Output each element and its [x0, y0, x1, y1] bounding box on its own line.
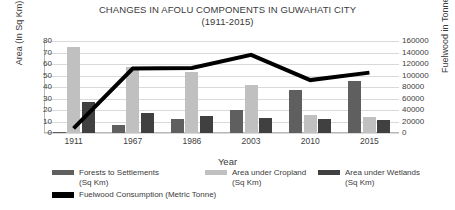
y-tick-label-right: 20000 — [402, 118, 442, 126]
fuelwood-line — [74, 55, 370, 129]
plot-area — [44, 41, 399, 133]
x-tick-label: 2015 — [339, 136, 399, 146]
y-tick-label-left: 70 — [26, 49, 52, 57]
chart-subtitle: (1911-2015) — [0, 16, 455, 28]
legend-swatch — [52, 192, 74, 198]
y-tick-label-right: 0 — [402, 129, 442, 137]
y-tick-label-left: 80 — [26, 37, 52, 45]
y-tick-label-right: 160000 — [402, 37, 442, 45]
y-tick-label-left: 30 — [26, 95, 52, 103]
y-tick-label-left: 20 — [26, 106, 52, 114]
legend-item[interactable]: Area under Cropland(Sq Km) — [205, 168, 306, 188]
y-tick-label-right: 100000 — [402, 72, 442, 80]
chart-title-block: CHANGES IN AFOLU COMPONENTS IN GUWAHATI … — [0, 4, 455, 28]
y-tick-label-left: 40 — [26, 83, 52, 91]
y-tick-label-right: 80000 — [402, 83, 442, 91]
legend-swatch — [52, 170, 74, 175]
x-tick-label: 1911 — [44, 136, 104, 146]
y-tick-label-right: 140000 — [402, 49, 442, 57]
legend-item[interactable]: Area under Wetlands(Sq Km) — [318, 168, 420, 188]
legend-swatch — [318, 170, 340, 175]
x-axis-title: Year — [0, 156, 455, 167]
y-tick-label-left: 50 — [26, 72, 52, 80]
chart-title: CHANGES IN AFOLU COMPONENTS IN GUWAHATI … — [0, 4, 455, 16]
legend-item[interactable]: Forests to Settlements(Sq Km) — [52, 168, 159, 188]
y-tick-label-right: 120000 — [402, 60, 442, 68]
x-tick-label: 1967 — [103, 136, 163, 146]
x-tick-label: 1986 — [162, 136, 222, 146]
legend-swatch — [205, 170, 227, 175]
y-tick-label-right: 40000 — [402, 106, 442, 114]
y-axis-title-left: Area (In Sq Km) — [14, 0, 24, 83]
y-tick-label-left: 60 — [26, 60, 52, 68]
fuelwood-line-series — [44, 41, 399, 133]
legend-label: Fuelwood Consumption (Metric Tonne) — [79, 190, 216, 200]
y-tick-label-right: 60000 — [402, 95, 442, 103]
legend-label: Area under Wetlands(Sq Km) — [345, 168, 420, 188]
y-tick-label-left: 10 — [26, 118, 52, 126]
x-tick-label: 2010 — [280, 136, 340, 146]
legend-label: Area under Cropland(Sq Km) — [232, 168, 306, 188]
legend-item[interactable]: Fuelwood Consumption (Metric Tonne) — [52, 190, 216, 200]
x-tick-label: 2003 — [221, 136, 281, 146]
chart-container: CHANGES IN AFOLU COMPONENTS IN GUWAHATI … — [0, 0, 455, 210]
gridline — [44, 133, 399, 134]
legend-label: Forests to Settlements(Sq Km) — [79, 168, 159, 188]
